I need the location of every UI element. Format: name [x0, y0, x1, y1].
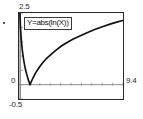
plot-frame[interactable]: Y=abs(ln(X)): [18, 12, 124, 100]
y-axis-min-label: -0.5: [9, 100, 22, 109]
x-axis-max-label: 9.4: [126, 76, 137, 85]
y-axis-zero-label: 0: [11, 76, 15, 85]
function-expression-label[interactable]: Y=abs(ln(X)): [24, 17, 72, 30]
stray-pixel-dot: [3, 22, 5, 24]
calculator-graph-screen: 2.5 0 -0.5 9.4 Y=abs(ln(X)): [0, 0, 143, 119]
y-axis-max-label: 2.5: [19, 2, 30, 11]
